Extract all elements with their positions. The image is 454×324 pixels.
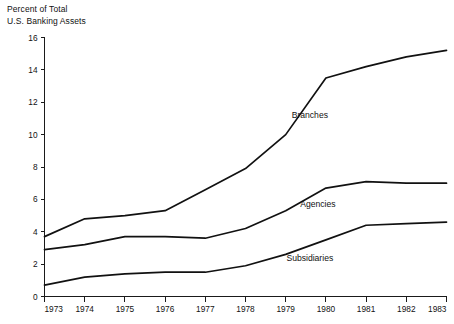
- series-line-subsidiaries: [45, 222, 447, 285]
- x-axis-tick-label: 1975: [116, 304, 135, 314]
- x-axis-tick-label: 1974: [75, 304, 94, 314]
- y-axis-tick-label: 8: [33, 162, 38, 172]
- x-axis-tick-label: 1980: [317, 304, 336, 314]
- y-axis-tick-label: 14: [28, 65, 38, 75]
- series-line-branches: [45, 50, 447, 236]
- y-axis-tick-label: 6: [33, 194, 38, 204]
- x-axis-tick-label: 1976: [156, 304, 175, 314]
- series-label-agencies: Agencies: [300, 199, 335, 209]
- series-annotations: BranchesAgenciesSubsidiaries: [286, 110, 335, 262]
- y-axis-tick-label: 0: [33, 292, 38, 302]
- y-axis-tick-label: 4: [33, 227, 38, 237]
- y-axis-tick-label: 16: [28, 33, 38, 43]
- chart-figure: Percent of Total U.S. Banking Assets 024…: [0, 0, 454, 324]
- y-axis-tick-label: 2: [33, 259, 38, 269]
- x-axis-tick-label: 1978: [236, 304, 255, 314]
- x-axis-tick-label: 1973: [45, 304, 64, 314]
- x-axis-tick-label: 1979: [276, 304, 295, 314]
- y-axis-tick-label: 10: [28, 130, 38, 140]
- y-axis: 0246810121416: [28, 33, 44, 302]
- x-axis-tick-label: 1982: [397, 304, 416, 314]
- series-label-branches: Branches: [292, 110, 328, 120]
- x-axis: 1973197419751976197719781979198019811982…: [45, 297, 447, 314]
- line-chart-plot: 0246810121416 19731974197519761977197819…: [0, 0, 454, 324]
- series-lines: [45, 50, 447, 285]
- series-label-subsidiaries: Subsidiaries: [286, 253, 333, 263]
- x-axis-tick-label: 1983: [428, 304, 447, 314]
- x-axis-tick-label: 1977: [196, 304, 215, 314]
- series-line-agencies: [45, 182, 447, 250]
- y-axis-tick-label: 12: [28, 97, 38, 107]
- x-axis-tick-label: 1981: [357, 304, 376, 314]
